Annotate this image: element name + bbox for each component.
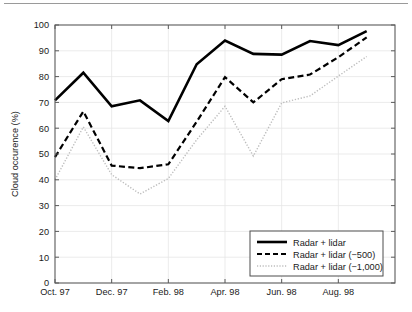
xtick-label: Oct. 97 <box>40 287 70 297</box>
ytick-label: 90 <box>39 46 49 56</box>
x-axis-tick-labels: Oct. 97Dec. 97Feb. 98Apr. 98Jun. 98Aug. … <box>40 287 354 297</box>
figure-container: 0102030405060708090100 Oct. 97Dec. 97Feb… <box>0 0 412 312</box>
xtick-label: Dec. 97 <box>96 287 128 297</box>
legend-label-radar-lidar: Radar + lidar <box>293 238 346 248</box>
ytick-label: 30 <box>39 201 49 211</box>
y-axis-title: Cloud occurence (%) <box>10 111 20 197</box>
ytick-label: 100 <box>34 20 49 30</box>
ytick-label: 20 <box>39 227 49 237</box>
xtick-label: Aug. 98 <box>322 287 354 297</box>
ytick-label: 40 <box>39 175 49 185</box>
ytick-label: 80 <box>39 72 49 82</box>
xtick-label: Apr. 98 <box>210 287 239 297</box>
xtick-label: Feb. 98 <box>153 287 184 297</box>
legend-label-radar-lidar-500: Radar + lidar (−500) <box>293 250 375 260</box>
ytick-label: 60 <box>39 124 49 134</box>
line-chart: 0102030405060708090100 Oct. 97Dec. 97Feb… <box>0 0 412 312</box>
legend-label-radar-lidar-1000: Radar + lidar (−1,000) <box>293 262 383 272</box>
chart-legend: Radar + lidar Radar + lidar (−500) Radar… <box>250 231 383 276</box>
ytick-label: 10 <box>39 253 49 263</box>
xtick-label: Jun. 98 <box>267 287 297 297</box>
ytick-label: 50 <box>39 149 49 159</box>
ytick-label: 70 <box>39 98 49 108</box>
y-axis-tick-labels: 0102030405060708090100 <box>34 20 49 288</box>
